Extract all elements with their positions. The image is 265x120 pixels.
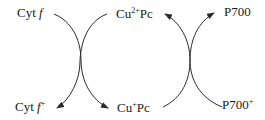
- cu1-pc-suffix: Pc: [137, 100, 150, 115]
- label-cyt-f-plus: Cyt f+: [15, 100, 45, 114]
- label-cyt-f: Cyt f: [17, 6, 43, 20]
- cu2-pc-base: Cu: [116, 6, 131, 21]
- p700-plus-base: P700: [222, 97, 249, 112]
- cu1-pc-base: Cu: [117, 100, 132, 115]
- cu2-pc-suffix: Pc: [140, 6, 153, 21]
- cyt-f-plus-base: Cyt: [15, 99, 37, 114]
- arrow-cu2pc-to-cu1pc: [54, 14, 108, 108]
- label-p700: P700: [224, 5, 251, 19]
- label-p700-plus: P700+: [222, 98, 253, 112]
- arrow-cyt-f-to-cyt-f-plus: [57, 14, 107, 108]
- p700-base: P700: [224, 4, 251, 19]
- label-cu1-pc: Cu+Pc: [117, 101, 150, 115]
- p700-plus-charge: +: [249, 97, 254, 106]
- arrow-cu1pc-to-cu2pc: [165, 14, 222, 107]
- arrow-p700-plus-to-p700: [163, 13, 214, 107]
- cyt-f-plus-charge: +: [41, 99, 46, 108]
- label-cu2-pc: Cu2+Pc: [116, 7, 153, 21]
- cu2-pc-charge: 2+: [131, 6, 140, 15]
- cyt-f-italic: f: [39, 5, 43, 20]
- cyt-f-base: Cyt: [17, 5, 39, 20]
